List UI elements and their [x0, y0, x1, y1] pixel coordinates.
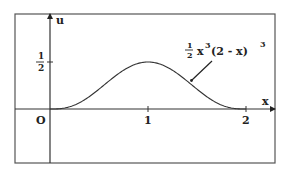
coef-denominator: 2	[187, 50, 193, 60]
x-axis-label: x	[262, 95, 269, 108]
u-axis-label: u	[56, 14, 64, 27]
chart-figure: u x O 1 2 1 2 1 2 x 3 (2 - x) 3	[0, 0, 286, 172]
annotation-pointer-dot	[190, 79, 193, 82]
formula-exp-2: 3	[260, 39, 266, 49]
function-curve	[50, 62, 246, 109]
formula-annotation: 1 2 x 3 (2 - x) 3	[185, 39, 266, 60]
coef-numerator: 1	[187, 40, 193, 50]
plot-frame	[15, 14, 275, 163]
half-denominator: 2	[38, 63, 44, 73]
x-tick-label-1: 1	[144, 114, 152, 127]
u-tick-label-half: 1 2	[36, 51, 44, 73]
half-numerator: 1	[38, 51, 44, 61]
origin-label: O	[36, 114, 46, 127]
x-tick-label-2: 2	[242, 114, 250, 127]
annotation-pointer	[192, 61, 212, 80]
formula-paren: (2 - x)	[211, 45, 248, 58]
formula-base-x: x	[197, 45, 204, 58]
